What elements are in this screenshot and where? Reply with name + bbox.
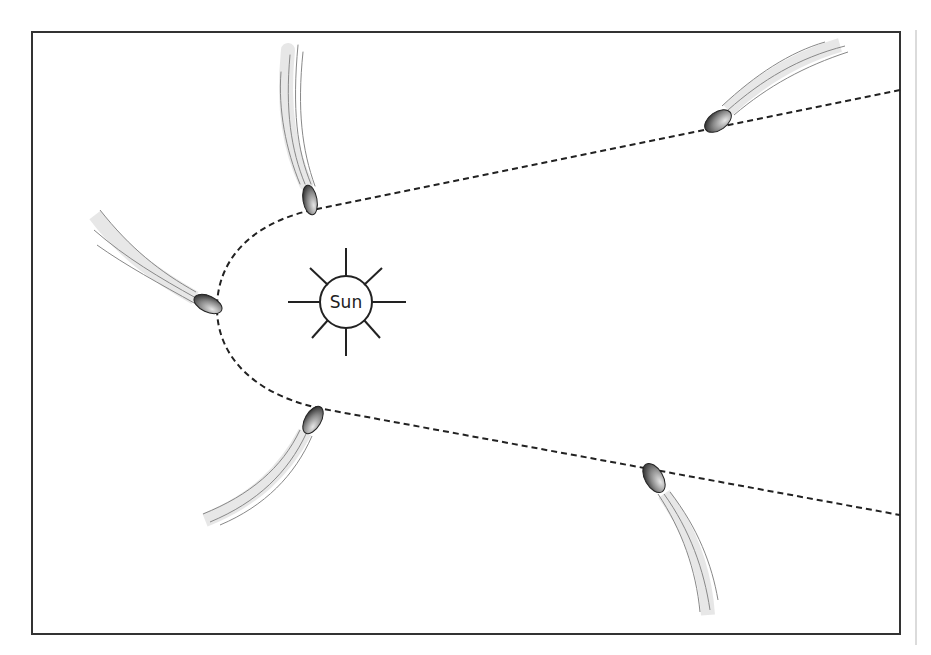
comet-upper-right bbox=[701, 42, 848, 137]
comet-left bbox=[94, 210, 225, 318]
comet-tail bbox=[203, 430, 312, 525]
comet-upper-left bbox=[280, 45, 319, 216]
comet-lower-left bbox=[203, 403, 327, 525]
comet-nucleus bbox=[638, 460, 670, 497]
comet-tail bbox=[658, 492, 718, 615]
comet-nucleus bbox=[301, 184, 320, 216]
sun-label: Sun bbox=[330, 292, 362, 312]
diagram-frame bbox=[32, 32, 900, 634]
comet-tail bbox=[94, 210, 196, 304]
comet-tail bbox=[280, 45, 315, 186]
comet-lower-right bbox=[638, 460, 718, 615]
comet-orbit-diagram: Sun bbox=[0, 0, 931, 655]
